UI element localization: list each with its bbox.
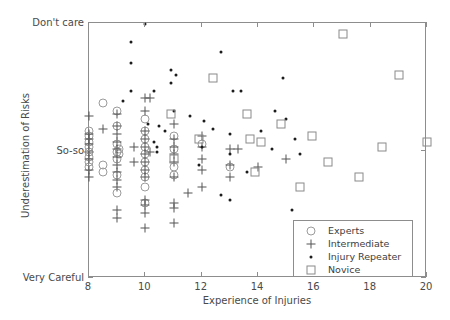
x-tick-mark (257, 272, 258, 277)
data-point-novice (423, 137, 432, 146)
x-tick-label: 12 (194, 281, 207, 292)
data-point-intermediate (113, 109, 122, 118)
x-tick-mark (201, 22, 202, 27)
data-point-injury-repeater (152, 140, 155, 143)
data-point-injury-repeater (273, 109, 276, 112)
data-point-novice (245, 135, 254, 144)
x-tick-label: 20 (420, 281, 433, 292)
data-point-injury-repeater (164, 130, 167, 133)
data-point-novice (208, 73, 217, 82)
data-point-intermediate (145, 147, 154, 156)
data-point-injury-repeater (299, 153, 302, 156)
data-point-injury-repeater (155, 145, 158, 148)
data-point-intermediate (141, 106, 150, 115)
data-point-injury-repeater (282, 76, 285, 79)
data-point-novice (194, 135, 203, 144)
data-point-intermediate (85, 155, 94, 164)
data-point-injury-repeater (130, 41, 133, 44)
data-point-intermediate (169, 203, 178, 212)
x-tick-mark (426, 22, 427, 27)
y-tick-mark (88, 22, 93, 23)
data-point-intermediate (197, 165, 206, 174)
data-point-injury-repeater (259, 130, 262, 133)
data-point-injury-repeater (228, 132, 231, 135)
legend-marker-open-square-icon (294, 263, 328, 276)
data-point-intermediate (113, 214, 122, 223)
data-point-injury-repeater (155, 150, 158, 153)
data-point-experts (99, 99, 108, 108)
data-point-novice (251, 168, 260, 177)
legend-box: ExpertsIntermediateInjury RepeaterNovice (293, 220, 413, 277)
data-point-injury-repeater (228, 199, 231, 202)
y-tick-mark (421, 150, 426, 151)
x-axis-title: Experience of Injuries (88, 295, 426, 306)
data-point-injury-repeater (158, 125, 161, 128)
x-tick-mark (144, 272, 145, 277)
x-tick-label: 8 (85, 281, 91, 292)
data-point-injury-repeater (240, 89, 243, 92)
data-point-injury-repeater (271, 148, 274, 151)
data-point-injury-repeater (130, 89, 133, 92)
x-tick-mark (313, 22, 314, 27)
data-point-intermediate (145, 94, 154, 103)
data-point-intermediate (141, 224, 150, 233)
data-point-novice (338, 30, 347, 39)
x-tick-label: 16 (307, 281, 320, 292)
data-point-experts (99, 168, 108, 177)
x-tick-mark (144, 22, 145, 27)
y-tick-label: Don't care (32, 17, 84, 28)
data-point-intermediate (169, 119, 178, 128)
data-point-intermediate (169, 173, 178, 182)
data-point-intermediate (225, 173, 234, 182)
data-point-injury-repeater (130, 61, 133, 64)
x-tick-mark (426, 272, 427, 277)
x-tick-mark (201, 272, 202, 277)
legend-item-intermediate[interactable]: Intermediate (294, 237, 412, 250)
y-axis-title: Underestimation of Risks (20, 56, 31, 256)
data-point-intermediate (234, 145, 243, 154)
y-tick-mark (421, 22, 426, 23)
scatter-plot-figure: 8101214161820Don't careSo-soVery Careful… (0, 0, 450, 320)
x-tick-label: 14 (251, 281, 264, 292)
y-tick-mark (421, 277, 426, 278)
data-point-injury-repeater (245, 171, 248, 174)
data-point-intermediate (225, 160, 234, 169)
data-point-experts (141, 183, 150, 192)
legend-marker-filled-dot-icon (294, 250, 328, 263)
data-point-novice (169, 155, 178, 164)
legend-item-injury-repeater[interactable]: Injury Repeater (294, 250, 412, 263)
data-point-intermediate (99, 124, 108, 133)
data-point-injury-repeater (175, 74, 178, 77)
data-point-injury-repeater (285, 117, 288, 120)
data-point-novice (256, 137, 265, 146)
y-tick-mark (88, 277, 93, 278)
data-point-injury-repeater (231, 89, 234, 92)
data-point-intermediate (113, 183, 122, 192)
legend-item-experts[interactable]: Experts (294, 224, 412, 237)
data-point-injury-repeater (200, 145, 203, 148)
data-point-injury-repeater (152, 89, 155, 92)
legend-marker-plus-icon (294, 237, 328, 250)
data-point-intermediate (183, 188, 192, 197)
data-point-novice (355, 173, 364, 182)
y-tick-label: Very Careful (23, 272, 84, 283)
data-point-injury-repeater (121, 99, 124, 102)
legend-label: Injury Repeater (328, 251, 401, 262)
data-point-novice (394, 71, 403, 80)
data-point-injury-repeater (290, 209, 293, 212)
y-tick-mark (88, 150, 93, 151)
legend-label: Experts (328, 225, 364, 236)
data-point-intermediate (282, 155, 291, 164)
data-point-injury-repeater (147, 122, 150, 125)
data-point-intermediate (141, 208, 150, 217)
data-point-novice (276, 119, 285, 128)
data-point-intermediate (130, 157, 139, 166)
data-point-injury-repeater (169, 69, 172, 72)
data-point-intermediate (85, 112, 94, 121)
data-point-intermediate (197, 183, 206, 192)
data-point-injury-repeater (203, 120, 206, 123)
legend-item-novice[interactable]: Novice (294, 263, 412, 276)
x-tick-label: 10 (138, 281, 151, 292)
data-point-injury-repeater (197, 163, 200, 166)
data-point-intermediate (169, 219, 178, 228)
